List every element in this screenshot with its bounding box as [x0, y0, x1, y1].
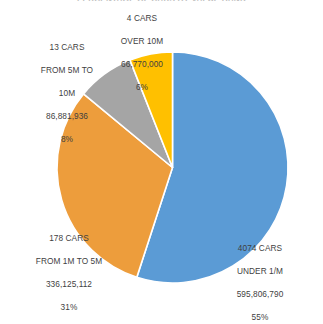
data-label-1m-to-5m-count: 178 CARS — [4, 233, 134, 244]
data-label-1m-to-5m-range: FROM 1M TO 5M — [4, 256, 134, 267]
data-label-5m-to-10m-range-b: 10M — [12, 88, 122, 99]
data-label-under-1m-range: UNDER 1/M — [214, 266, 306, 277]
data-label-5m-to-10m-percent: 8% — [12, 134, 122, 145]
data-label-5m-to-10m: 13 CARS FROM 5M TO 10M 86,881,936 8% — [12, 31, 122, 156]
data-label-5m-to-10m-count: 13 CARS — [12, 42, 122, 53]
data-label-5m-to-10m-amount: 86,881,936 — [12, 111, 122, 122]
data-label-1m-to-5m: 178 CARS FROM 1M TO 5M 336,125,112 31% — [4, 222, 134, 324]
data-label-under-1m-amount: 595,806,790 — [214, 289, 306, 300]
data-label-under-1m-count: 4074 CARS — [214, 243, 306, 254]
data-label-1m-to-5m-amount: 336,125,112 — [4, 279, 134, 290]
data-label-over-10m-count: 4 CARS — [100, 13, 184, 24]
data-label-5m-to-10m-range-a: FROM 5M TO — [12, 65, 122, 76]
data-label-under-1m-percent: 55% — [214, 312, 306, 323]
data-label-under-1m: 4074 CARS UNDER 1/M 595,806,790 55% — [214, 232, 306, 324]
data-label-1m-to-5m-percent: 31% — [4, 302, 134, 313]
